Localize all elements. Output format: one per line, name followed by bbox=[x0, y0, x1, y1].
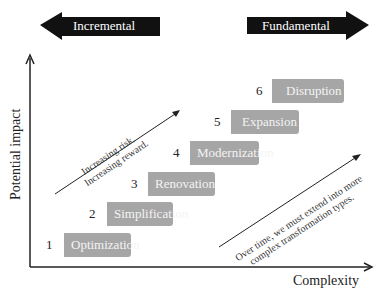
step-disruption: Disruption bbox=[272, 79, 344, 103]
step-renovation: Renovation bbox=[148, 172, 215, 196]
step-modernization: Modernization bbox=[190, 141, 259, 165]
step-number-3: 3 bbox=[131, 172, 138, 196]
time-arrowhead-icon bbox=[352, 154, 361, 161]
step-simplification: Simplification bbox=[107, 202, 173, 226]
step-number-1: 1 bbox=[46, 233, 53, 257]
y-axis-label: Potential impact bbox=[8, 109, 24, 200]
x-axis-label: Complexity bbox=[293, 273, 359, 289]
step-expansion: Expansion bbox=[231, 110, 299, 134]
step-optimization: Optimization bbox=[64, 233, 131, 257]
step-number-5: 5 bbox=[214, 110, 221, 134]
step-number-2: 2 bbox=[89, 202, 96, 226]
step-number-4: 4 bbox=[173, 141, 180, 165]
risk-arrowhead-icon bbox=[172, 110, 180, 117]
step-number-6: 6 bbox=[256, 79, 263, 103]
